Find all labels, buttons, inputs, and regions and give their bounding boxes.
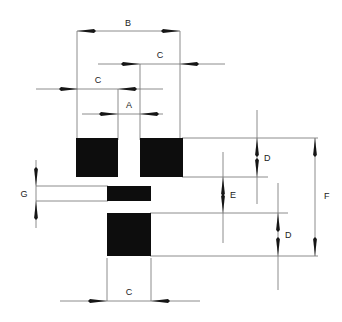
dimension-d-lower: D	[276, 213, 292, 256]
dimension-g-label: G	[20, 189, 27, 199]
dimension-a: A	[99, 100, 159, 116]
dimension-d-upper-label: D	[264, 153, 271, 163]
dimension-f-label: F	[324, 191, 330, 201]
bottom-pad	[107, 213, 151, 256]
dimension-c-upper: C	[121, 50, 199, 66]
dimension-drawing-canvas: B C C A G D	[0, 0, 342, 322]
dimension-e: E	[221, 177, 236, 213]
dimension-c-upper-label: C	[157, 50, 164, 60]
dimension-c-bottom: C	[88, 287, 170, 303]
technical-drawing-svg: B C C A G D	[0, 0, 342, 322]
dimension-b-label: B	[125, 18, 131, 28]
dimension-d-upper: D	[255, 138, 271, 177]
dimension-c-left-label: C	[95, 75, 102, 85]
dimension-c-bottom-label: C	[126, 287, 133, 297]
dimension-e-label: E	[230, 190, 236, 200]
dimension-d-lower-label: D	[285, 230, 292, 240]
top-right-pad	[140, 138, 183, 177]
middle-pad	[107, 186, 151, 201]
pad-group	[76, 138, 183, 256]
top-left-pad	[76, 138, 118, 177]
dimension-c-left: C	[59, 75, 137, 91]
dimension-g: G	[20, 167, 37, 220]
dimension-f: F	[313, 138, 330, 256]
dimension-a-label: A	[126, 100, 132, 110]
